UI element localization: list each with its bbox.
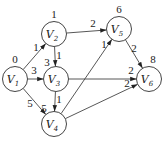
nodes-layer: V1V2V3V4V5V6 [3,17,162,137]
node-v4: V4 [42,112,67,137]
edge-weight-label: 3 [31,64,37,76]
node-distance-label: 6 [116,3,122,15]
edge-weight-label: 2 [131,42,137,54]
node-distance-label: 5 [41,102,47,114]
node-v6: V6 [137,67,162,92]
edge-weight-label: 1 [56,93,62,105]
graph-diagram: V1V2V3V4V5V6 1351212122013568 [0,0,166,142]
node-distance-label: 1 [51,8,57,20]
node-v2: V2 [42,22,67,47]
edge-v4-v6 [65,84,137,118]
node-distance-label: 8 [150,53,156,65]
edge-v2-v5 [66,30,106,33]
edge-weight-label: 5 [27,97,33,109]
edge-weight-label: 2 [90,17,96,29]
edge-weight-label: 1 [33,41,39,53]
node-distance-label: 0 [12,53,18,65]
node-v3: V3 [44,67,69,92]
edge-weight-label: 2 [128,64,134,76]
node-v5: V5 [107,17,132,42]
labels-layer: 1351212122013568 [12,3,156,114]
node-distance-label: 3 [44,56,50,68]
edge-weight-label: 2 [124,77,130,89]
edge-weight-label: 1 [56,49,62,61]
node-v1: V1 [3,67,28,92]
edge-weight-label: 1 [101,38,107,50]
